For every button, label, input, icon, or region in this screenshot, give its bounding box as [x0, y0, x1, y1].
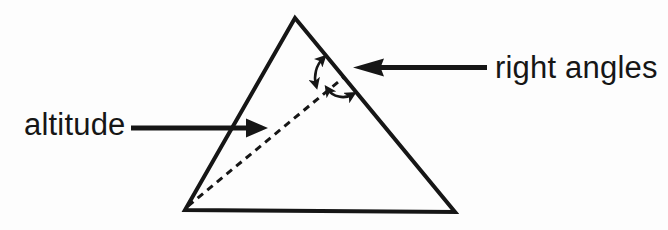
right-angles-label: right angles	[495, 52, 658, 83]
altitude-label: altitude	[24, 109, 126, 140]
altitude-dashed-line	[188, 78, 343, 206]
lower-right-angle-arc-icon	[327, 89, 352, 97]
altitude-arrow-icon	[131, 119, 268, 138]
right-angles-arrow-icon	[353, 59, 487, 77]
geometry-diagram: altitude right angles	[0, 0, 668, 230]
upper-right-angle-arc-icon	[315, 58, 323, 85]
triangle-outline	[185, 18, 455, 212]
